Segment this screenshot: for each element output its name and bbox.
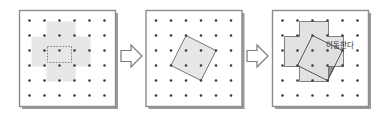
panel-1 (20, 11, 119, 110)
panel-2 (146, 11, 245, 110)
transition-arrow-2 (247, 45, 268, 67)
transformation-diagram: 이동한다 (0, 0, 379, 114)
move-annotation: 이동한다 (326, 40, 354, 50)
panel-3: 이동한다 (273, 11, 372, 110)
transition-arrow-1 (121, 45, 142, 67)
